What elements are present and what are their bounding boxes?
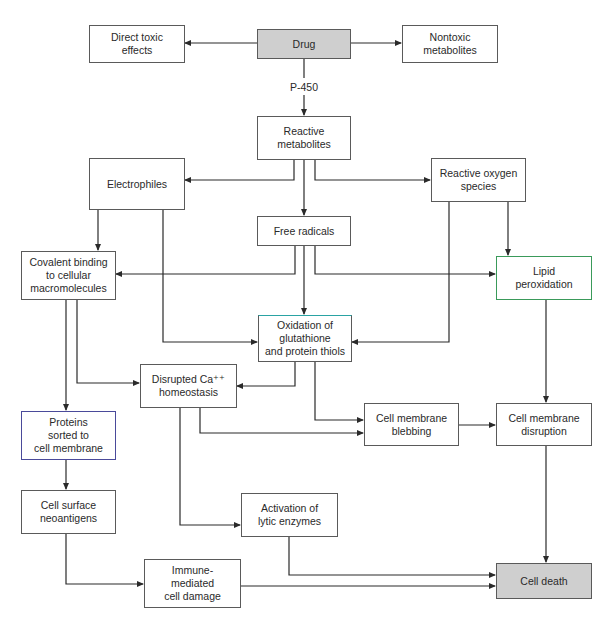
toxicity-flowchart: P-450 Direct toxic effects Drug Nontoxic…: [0, 0, 610, 621]
node-free-radicals: Free radicals: [257, 216, 351, 246]
node-direct-toxic-effects: Direct toxic effects: [89, 25, 185, 63]
node-immune-mediated-damage: Immune- mediated cell damage: [144, 559, 241, 608]
p450-edge-label: P-450: [288, 81, 320, 93]
node-cell-membrane-blebbing: Cell membrane blebbing: [364, 403, 459, 446]
node-cell-surface-neoantigens: Cell surface neoantigens: [21, 490, 116, 534]
node-oxidation-glutathione: Oxidation of glutathione and protein thi…: [258, 315, 352, 362]
node-drug: Drug: [257, 29, 351, 59]
node-reactive-metabolites: Reactive metabolites: [257, 116, 351, 160]
node-covalent-binding: Covalent binding to cellular macromolecu…: [21, 251, 116, 300]
node-lipid-peroxidation: Lipid peroxidation: [496, 256, 592, 300]
node-proteins-sorted: Proteins sorted to cell membrane: [21, 411, 116, 460]
node-cell-membrane-disruption: Cell membrane disruption: [496, 403, 592, 446]
node-cell-death: Cell death: [496, 563, 592, 599]
node-reactive-oxygen-species: Reactive oxygen species: [431, 158, 526, 202]
node-nontoxic-metabolites: Nontoxic metabolites: [402, 25, 498, 63]
node-disrupted-calcium: Disrupted Ca⁺⁺ homeostasis: [140, 364, 237, 408]
node-activation-lytic-enzymes: Activation of lytic enzymes: [241, 493, 338, 537]
node-electrophiles: Electrophiles: [89, 158, 185, 210]
